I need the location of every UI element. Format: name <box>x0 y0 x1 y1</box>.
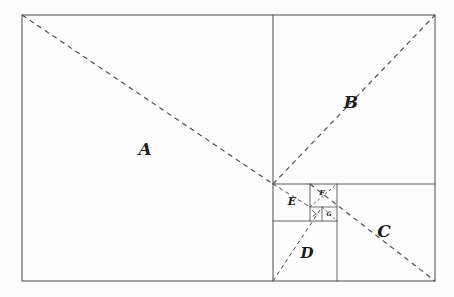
tick-h-box-2 <box>313 214 316 216</box>
region-label-b: B <box>343 92 358 112</box>
tick-h-box <box>312 210 316 214</box>
small-tick-marks <box>312 210 316 216</box>
region-labels: ABCDEFG <box>136 92 391 263</box>
diagonal-d <box>273 207 322 281</box>
region-label-g: G <box>326 210 331 217</box>
outer-rectangle-border <box>22 15 435 281</box>
golden-rectangle-figure: ABCDEFG <box>0 0 454 297</box>
region-label-c: C <box>377 221 391 241</box>
dashed-diagonal-lines <box>22 15 435 281</box>
diagonal-c <box>310 184 435 281</box>
internal-divider-lines <box>273 15 435 281</box>
diagram-canvas: ABCDEFG <box>0 0 454 297</box>
diagonal-a <box>22 15 273 184</box>
region-label-a: A <box>136 139 151 159</box>
region-label-e: E <box>287 195 297 208</box>
region-label-d: D <box>299 244 313 262</box>
